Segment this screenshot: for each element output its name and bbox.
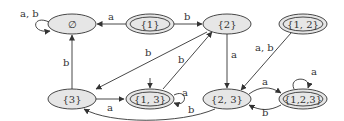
node-s12: {1, 2} bbox=[279, 14, 327, 34]
edge-label: a bbox=[231, 49, 237, 60]
node-empty: ∅ bbox=[48, 14, 96, 34]
edge-label: a bbox=[311, 66, 317, 77]
node-s2: {2} bbox=[203, 14, 251, 34]
edge-label: b bbox=[145, 47, 151, 58]
node-s123: {1,2,3} bbox=[279, 89, 327, 109]
node-label: {1, 2} bbox=[287, 19, 319, 30]
edge-s23-s3 bbox=[84, 109, 215, 120]
node-label: {2} bbox=[217, 19, 236, 30]
node-s1: {1} bbox=[126, 14, 174, 34]
node-label: {2, 3} bbox=[211, 94, 243, 105]
edge-label: a bbox=[182, 87, 188, 98]
node-s3: {3} bbox=[48, 89, 96, 109]
edge-label: b bbox=[188, 104, 194, 115]
edge-label: b bbox=[63, 57, 69, 68]
edge-s13-s2 bbox=[163, 32, 212, 89]
node-s23: {2, 3} bbox=[203, 89, 251, 109]
node-label: {1,2,3} bbox=[284, 94, 322, 105]
node-s13: {1, 3} bbox=[126, 89, 174, 109]
edge-s23-s123 bbox=[249, 88, 281, 94]
node-label: {3} bbox=[62, 94, 81, 105]
node-label: ∅ bbox=[68, 19, 77, 30]
node-label: {1, 3} bbox=[134, 94, 166, 105]
edge-label: b bbox=[184, 11, 190, 22]
edge-label: b bbox=[178, 54, 184, 65]
edge-s123-self bbox=[293, 79, 308, 89]
edge-label: b bbox=[262, 107, 268, 118]
edge-label: a, b bbox=[255, 42, 274, 53]
edge-label: a bbox=[107, 102, 113, 113]
edge-label: a bbox=[108, 11, 114, 22]
edge-label: a, b bbox=[20, 8, 39, 19]
edge-s2-s3 bbox=[96, 32, 207, 89]
edge-label: a bbox=[262, 76, 268, 87]
node-label: {1} bbox=[140, 19, 159, 30]
automaton-diagram: a, b a b b a b a a b a, b a bbox=[0, 0, 344, 121]
